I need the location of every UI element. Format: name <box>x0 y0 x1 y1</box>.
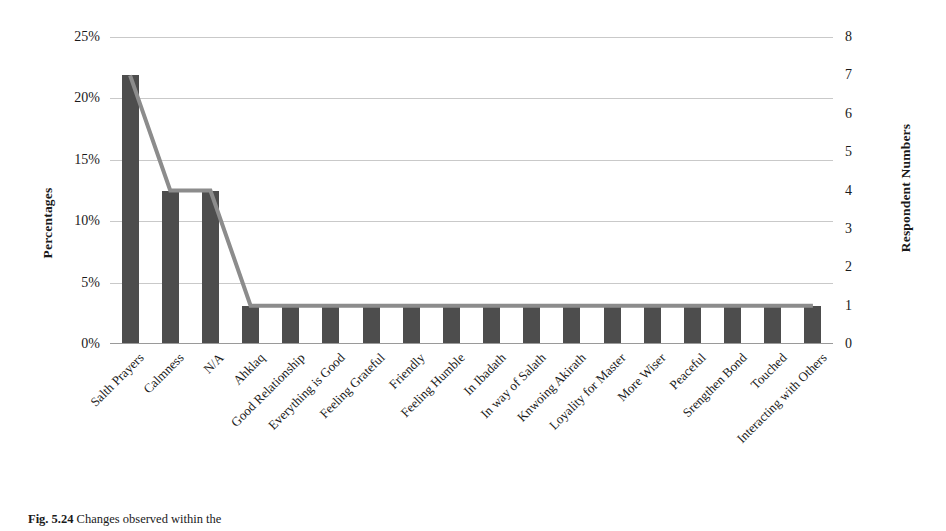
y-axis-ticks-left: 0%5%10%15%20%25% <box>42 37 100 344</box>
y-tick-label-right: 2 <box>845 260 852 274</box>
x-axis-category-label: Ahklaq <box>230 350 268 388</box>
x-axis-category-label: Calmness <box>140 350 187 397</box>
y-axis-title-right: Respondent Numbers <box>898 88 914 288</box>
y-tick-label-right: 6 <box>845 107 852 121</box>
figure-caption-label: Fig. 5.24 <box>28 512 73 526</box>
y-tick-label-right: 0 <box>845 337 852 351</box>
figure-container: Percentages Respondent Numbers 0%5%10%15… <box>0 0 946 531</box>
y-tick-label-right: 5 <box>845 145 852 159</box>
y-tick-label-right: 4 <box>845 184 852 198</box>
y-tick-label-left: 25% <box>74 30 100 44</box>
y-tick-label-left: 15% <box>74 153 100 167</box>
y-tick-label-left: 20% <box>74 91 100 105</box>
y-axis-ticks-right: 012345678 <box>845 37 885 344</box>
y-tick-label-right: 7 <box>845 68 852 82</box>
plot-area <box>110 37 833 344</box>
y-tick-label-right: 1 <box>845 299 852 313</box>
y-tick-label-right: 3 <box>845 222 852 236</box>
figure-caption: Fig. 5.24 Changes observed within the <box>28 512 221 527</box>
y-tick-label-left: 5% <box>81 276 100 290</box>
y-tick-label-left: 10% <box>74 214 100 228</box>
figure-caption-text: Changes observed within the <box>77 512 222 526</box>
x-axis-category-label: Salth Prayers <box>87 350 147 410</box>
line-series <box>110 37 833 344</box>
x-axis-category-labels: Salth PrayersCalmnessN/AAhklaqGood Relat… <box>110 344 833 494</box>
x-axis-category-label: N/A <box>201 350 228 377</box>
y-tick-label-left: 0% <box>81 337 100 351</box>
y-tick-label-right: 8 <box>845 30 852 44</box>
